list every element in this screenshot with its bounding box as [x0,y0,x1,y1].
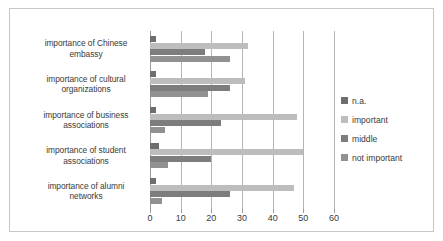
bar [150,198,162,204]
plot-area [150,31,334,209]
bar [150,85,230,91]
chart-figure: importance of Chineseembassyimportance o… [0,0,443,241]
category-label: importance of businessassociations [26,110,146,131]
x-tick-label: 10 [169,213,193,223]
bar [150,185,294,191]
category-axis-labels: importance of Chineseembassyimportance o… [26,31,146,209]
bar [150,178,156,184]
legend-item: important [341,110,441,129]
category-label-line: organizations [26,84,146,95]
chart-legend: n.a.importantmiddlenot important [341,91,441,167]
category-label-line: importance of student [26,145,146,156]
category-label-line: networks [26,191,146,202]
bar [150,36,156,42]
category-label-line: importance of alumni [26,181,146,192]
category-label-line: importance of Chinese [26,38,146,49]
bar-group [150,138,334,174]
bar [150,49,205,55]
bar-group [150,173,334,209]
category-label: importance of studentassociations [26,145,146,166]
bar [150,56,230,62]
legend-swatch-icon [341,154,348,161]
bar [150,78,245,84]
legend-swatch-icon [341,97,348,104]
legend-label: important [352,115,388,125]
legend-label: not important [352,153,402,163]
legend-item: n.a. [341,91,441,110]
bar [150,107,156,113]
bar-group [150,67,334,103]
category-label: importance of Chineseembassy [26,38,146,59]
x-tick-label: 30 [230,213,254,223]
bar [150,143,159,149]
chart-frame: importance of Chineseembassyimportance o… [9,8,434,232]
x-tick-label: 40 [261,213,285,223]
x-tick-label: 0 [138,213,162,223]
x-tick-label: 60 [322,213,346,223]
category-label-line: importance of business [26,110,146,121]
legend-swatch-icon [341,116,348,123]
bar-group [150,31,334,67]
bar [150,156,211,162]
category-label-line: embassy [26,49,146,60]
bar [150,127,165,133]
bar-group [150,102,334,138]
x-tick-label: 20 [199,213,223,223]
bar [150,162,168,168]
bar [150,43,248,49]
category-label-line: associations [26,156,146,167]
legend-label: middle [352,134,377,144]
bars-layer [150,31,334,209]
category-label: importance of culturalorganizations [26,74,146,95]
category-label-line: importance of cultural [26,74,146,85]
bar [150,149,303,155]
legend-item: not important [341,148,441,167]
bar [150,91,208,97]
legend-swatch-icon [341,135,348,142]
bar [150,71,156,77]
legend-item: middle [341,129,441,148]
bar [150,191,230,197]
bar [150,120,221,126]
x-axis-tick-labels: 0102030405060 [150,213,334,227]
gridline-60 [334,31,335,209]
bar [150,114,297,120]
x-tick-label: 50 [291,213,315,223]
category-label: importance of alumninetworks [26,181,146,202]
category-label-line: associations [26,120,146,131]
legend-label: n.a. [352,96,366,106]
